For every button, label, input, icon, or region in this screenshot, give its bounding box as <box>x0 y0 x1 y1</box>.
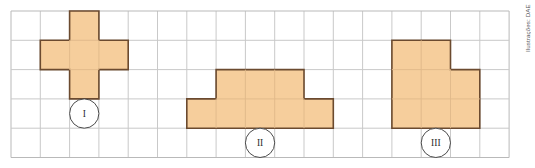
figure-canvas: IIIIII Ilustrações: DAE <box>0 0 535 168</box>
figure-I <box>40 11 128 99</box>
figure-label-text-I: I <box>83 109 86 119</box>
grid-and-figures-svg: IIIIII <box>0 0 535 168</box>
figure-label-text-II: II <box>257 138 263 148</box>
figure-label-badge-II[interactable]: II <box>245 128 274 157</box>
image-credit-text: Ilustrações: DAE <box>521 4 535 90</box>
figure-label-badge-I[interactable]: I <box>70 99 99 128</box>
figure-outline-III <box>392 40 480 128</box>
figure-II <box>187 70 333 129</box>
figure-label-text-III: III <box>431 138 441 148</box>
figure-III <box>392 40 480 128</box>
figure-label-badge-III[interactable]: III <box>421 128 450 157</box>
figure-outline-I <box>40 11 128 99</box>
